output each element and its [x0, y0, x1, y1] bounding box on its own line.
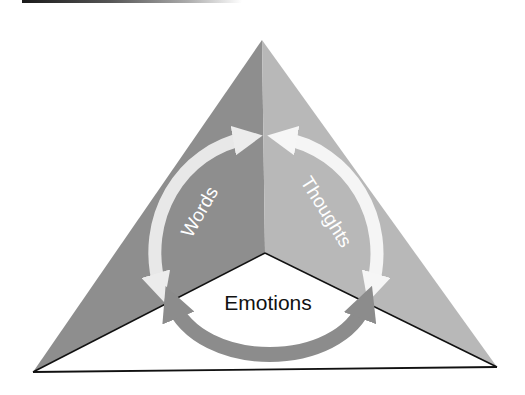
label-emotions: Emotions — [224, 291, 312, 314]
triangle-diagram: Words Thoughts Emotions — [0, 0, 525, 395]
